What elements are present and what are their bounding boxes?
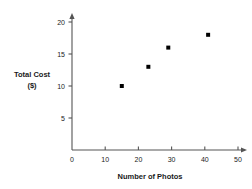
y-tick-label: 15 [43, 51, 65, 58]
x-tick-label: 50 [229, 156, 247, 163]
data-point-marker [166, 46, 170, 50]
data-point-marker [206, 33, 210, 37]
axis-ticks [69, 22, 239, 150]
x-tick-label: 10 [96, 156, 114, 163]
data-points [120, 33, 210, 88]
x-axis-arrowhead [241, 147, 247, 152]
data-point-marker [120, 84, 124, 88]
y-tick-label: 20 [43, 19, 65, 26]
x-tick-label: 0 [63, 156, 81, 163]
scatter-plot-figure: 510152001020304050 Total Cost ($) Number… [0, 0, 252, 189]
y-axis-title: Total Cost ($) [4, 70, 60, 92]
x-tick-label: 20 [129, 156, 147, 163]
data-point-marker [146, 65, 150, 69]
x-axis-title: Number of Photos [60, 172, 240, 181]
axes [69, 13, 247, 153]
y-axis-title-line2: ($) [4, 81, 60, 92]
x-tick-label: 40 [196, 156, 214, 163]
plot-area [0, 0, 252, 189]
y-axis-title-line1: Total Cost [4, 70, 60, 81]
y-axis-arrowhead [69, 13, 74, 19]
x-tick-label: 30 [163, 156, 181, 163]
y-tick-label: 5 [43, 115, 65, 122]
